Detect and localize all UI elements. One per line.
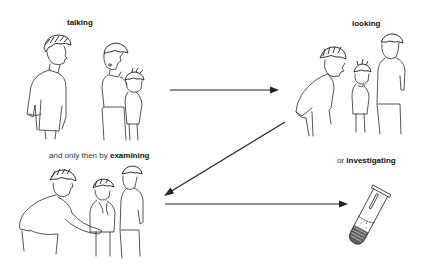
child-examined-figure <box>90 179 115 256</box>
figure-talking <box>27 35 144 140</box>
diagram-canvas: talking looking and only then by examini… <box>0 0 430 275</box>
illustration-layer <box>0 0 430 275</box>
figure-looking <box>296 34 405 136</box>
parent-examining-figure <box>120 166 143 258</box>
arrow-talking-to-looking <box>170 87 279 94</box>
sample-liquid <box>347 225 369 247</box>
arrowhead-right-icon <box>270 87 279 94</box>
arrowhead-right-icon <box>339 201 348 208</box>
arrow-examining-to-investigating <box>165 201 348 208</box>
mother-figure <box>102 43 128 140</box>
parent-looking-figure <box>377 34 405 134</box>
child-figure <box>125 68 144 140</box>
test-tube-icon <box>345 185 391 247</box>
doctor-bending-figure <box>296 47 346 136</box>
doctor-figure <box>27 35 71 139</box>
child-looking-figure <box>352 59 371 132</box>
arrowhead-down-left-icon <box>164 188 174 197</box>
doctor-examining-figure <box>20 169 103 254</box>
arrow-looking-to-examining <box>164 122 285 196</box>
figure-examining <box>20 166 144 258</box>
